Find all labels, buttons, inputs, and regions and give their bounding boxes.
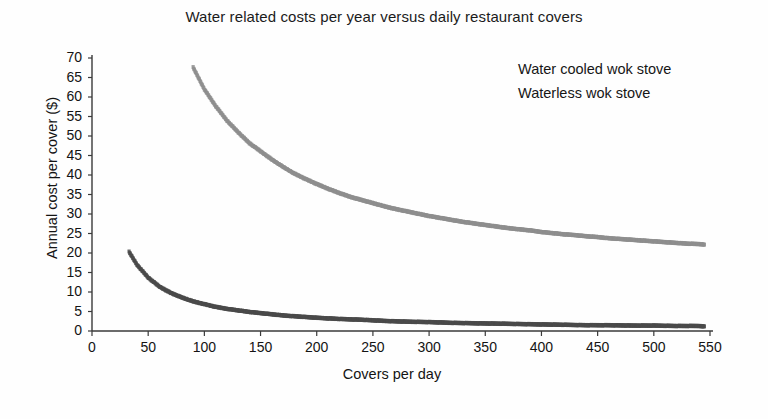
- plot-area: [0, 0, 768, 419]
- data-point: [703, 243, 706, 247]
- series-1-points: [192, 65, 706, 247]
- chart-container: Water related costs per year versus dail…: [0, 0, 768, 419]
- series-2-points: [127, 250, 706, 329]
- data-point: [703, 324, 706, 328]
